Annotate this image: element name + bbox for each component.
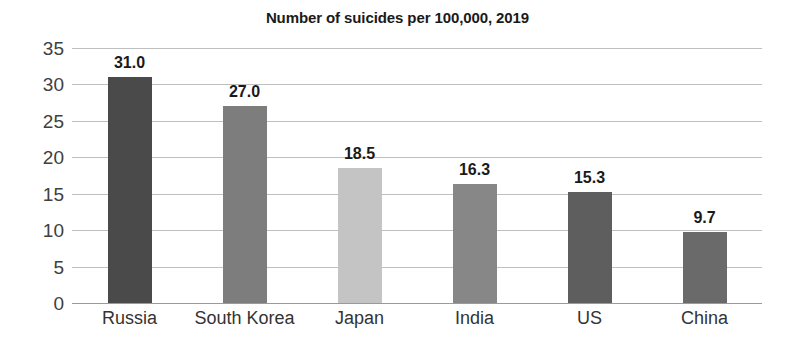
bar-value-label: 15.3 xyxy=(574,170,605,186)
x-tick-label: US xyxy=(532,308,647,330)
bar-group[interactable]: 9.7 xyxy=(683,48,727,303)
y-axis: 05101520253035 xyxy=(0,48,64,303)
gridline xyxy=(72,48,762,49)
gridline xyxy=(72,303,762,304)
bar-group[interactable]: 18.5 xyxy=(338,48,382,303)
bar-value-label: 9.7 xyxy=(693,210,715,226)
gridline xyxy=(72,84,762,85)
plot-area: 31.027.018.516.315.39.7 xyxy=(72,48,762,303)
y-tick-label: 10 xyxy=(0,221,64,240)
x-tick-label: South Korea xyxy=(187,308,302,330)
bar-group[interactable]: 16.3 xyxy=(453,48,497,303)
bar[interactable] xyxy=(108,77,152,303)
x-tick-label: Russia xyxy=(72,308,187,330)
bar-group[interactable]: 31.0 xyxy=(108,48,152,303)
gridline xyxy=(72,267,762,268)
bar[interactable] xyxy=(568,192,612,303)
x-tick-label: India xyxy=(417,308,532,330)
bar[interactable] xyxy=(223,106,267,303)
y-tick-label: 20 xyxy=(0,148,64,167)
bar[interactable] xyxy=(683,232,727,303)
gridline xyxy=(72,230,762,231)
x-tick-label: Japan xyxy=(302,308,417,330)
bar-value-label: 31.0 xyxy=(114,55,145,71)
bar-value-label: 18.5 xyxy=(344,146,375,162)
bar-group[interactable]: 15.3 xyxy=(568,48,612,303)
bar-value-label: 27.0 xyxy=(229,84,260,100)
bar-group[interactable]: 27.0 xyxy=(223,48,267,303)
x-axis: RussiaSouth KoreaJapanIndiaUSChina xyxy=(72,308,762,338)
chart-title: Number of suicides per 100,000, 2019 xyxy=(0,9,795,26)
y-tick-label: 30 xyxy=(0,75,64,94)
bar[interactable] xyxy=(453,184,497,303)
gridline xyxy=(72,194,762,195)
y-tick-label: 0 xyxy=(0,294,64,313)
x-tick-label: China xyxy=(647,308,762,330)
gridline xyxy=(72,157,762,158)
bar[interactable] xyxy=(338,168,382,303)
y-tick-label: 15 xyxy=(0,184,64,203)
y-tick-label: 25 xyxy=(0,111,64,130)
gridline xyxy=(72,121,762,122)
bar-value-label: 16.3 xyxy=(459,162,490,178)
bar-chart: Number of suicides per 100,000, 2019 051… xyxy=(0,0,795,354)
y-tick-label: 35 xyxy=(0,39,64,58)
y-tick-label: 5 xyxy=(0,257,64,276)
